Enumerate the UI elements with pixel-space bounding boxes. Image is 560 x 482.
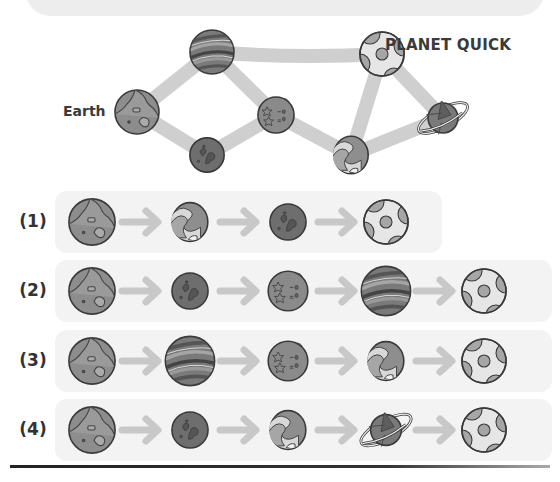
quick-planet-icon	[452, 261, 516, 322]
crater-planet-icon	[270, 204, 306, 240]
right-arrow-icon	[318, 211, 354, 233]
crater-planet-icon	[172, 273, 208, 309]
right-arrow-icon	[122, 350, 158, 372]
stars-planet-icon	[268, 271, 308, 311]
crater-planet-icon	[172, 412, 208, 448]
right-arrow-icon	[220, 211, 256, 233]
option-label: (4)	[12, 419, 54, 439]
option-label: (2)	[12, 280, 54, 300]
route-map	[0, 0, 560, 182]
planet-quick-label: PLANET QUICK	[385, 36, 511, 54]
right-arrow-icon	[220, 350, 256, 372]
ringed-planet-icon	[357, 408, 416, 452]
right-arrow-icon	[220, 280, 256, 302]
right-arrow-icon	[122, 280, 158, 302]
swirl-planet-icon	[263, 411, 305, 461]
earth-planet-icon	[69, 268, 115, 314]
striped-planet-icon	[190, 30, 234, 74]
earth-planet-icon	[69, 407, 115, 453]
swirl-planet-icon	[165, 203, 207, 253]
right-arrow-icon	[318, 350, 354, 372]
option-row-3[interactable]	[55, 330, 552, 392]
earth-planet-icon	[115, 90, 159, 134]
earth-planet-icon	[69, 199, 115, 245]
stars-planet-icon	[268, 341, 308, 381]
right-arrow-icon	[220, 419, 256, 441]
quick-planet-icon	[452, 400, 516, 461]
stars-planet-icon	[258, 97, 294, 133]
option-row-1[interactable]	[55, 191, 442, 253]
striped-planet-icon	[361, 266, 410, 315]
route-path	[212, 52, 382, 56]
swirl-planet-icon	[361, 342, 403, 392]
right-arrow-icon	[122, 211, 158, 233]
right-arrow-icon	[416, 350, 452, 372]
right-arrow-icon	[318, 280, 354, 302]
crater-planet-icon	[190, 138, 224, 172]
right-arrow-icon	[416, 280, 452, 302]
earth-label: Earth	[63, 103, 106, 119]
quick-planet-icon	[452, 331, 516, 392]
right-arrow-icon	[416, 419, 452, 441]
option-row-4[interactable]	[55, 399, 552, 461]
option-label: (3)	[12, 350, 54, 370]
right-arrow-icon	[318, 419, 354, 441]
quick-planet-icon	[354, 192, 418, 253]
earth-planet-icon	[69, 338, 115, 384]
divider-line	[10, 465, 550, 468]
right-arrow-icon	[122, 419, 158, 441]
option-row-2[interactable]	[55, 260, 552, 322]
striped-planet-icon	[165, 336, 214, 385]
option-label: (1)	[12, 211, 54, 231]
